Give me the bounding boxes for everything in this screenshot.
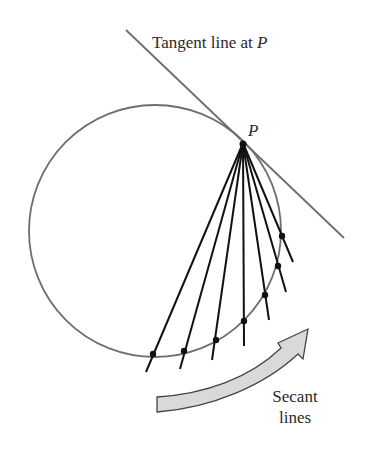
secant-label-line2: lines	[279, 408, 311, 427]
secant-line	[243, 143, 244, 346]
intersection-point	[150, 351, 156, 357]
intersection-point	[213, 337, 219, 343]
secant-label-line1: Secant	[272, 387, 318, 406]
secant-line	[243, 143, 293, 262]
secant-line	[180, 143, 243, 369]
tangent-line	[126, 30, 344, 238]
intersection-point	[279, 233, 285, 239]
intersection-point	[262, 292, 268, 298]
intersection-point	[275, 263, 281, 269]
secant-lines	[146, 141, 293, 373]
intersection-point	[181, 348, 187, 354]
tangent-label: Tangent line at P	[152, 33, 267, 52]
intersection-point	[241, 318, 247, 324]
point-p-dot	[240, 141, 247, 148]
point-p-label: P	[247, 121, 258, 140]
secant-line	[212, 143, 243, 360]
secant-line	[146, 143, 243, 372]
secant-tangent-diagram: Tangent line at P P Secant lines	[0, 0, 369, 451]
